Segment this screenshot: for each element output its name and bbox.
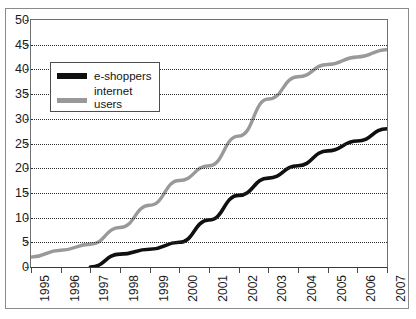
plot-area: [30, 19, 388, 268]
gridline: [31, 193, 387, 194]
x-axis-tick-label: 2007: [395, 275, 407, 302]
x-axis-tick-mark: [61, 268, 62, 273]
legend-label-e-shoppers: e-shoppers: [94, 70, 152, 83]
y-axis-tick-mark: [25, 193, 29, 194]
x-axis-tick-mark: [90, 268, 91, 273]
chart-figure: 05101520253035404550 1995199619971998199…: [0, 0, 416, 319]
x-axis: 1995199619971998199920002001200220032004…: [30, 268, 389, 316]
x-axis-tick-mark: [120, 268, 121, 273]
y-axis-tick-mark: [25, 45, 29, 46]
y-axis-tick-mark: [25, 94, 29, 95]
x-axis-tick-label: 2001: [217, 275, 229, 302]
legend-swatch-e-shoppers: [57, 73, 87, 79]
x-axis-tick-mark: [31, 268, 32, 273]
x-axis-tick-label: 1999: [158, 275, 170, 302]
legend-swatch-internet-users: [57, 98, 87, 103]
gridline: [31, 119, 387, 120]
x-axis-tick-label: 1997: [98, 275, 110, 302]
x-axis-tick-label: 2006: [365, 275, 377, 302]
x-axis-tick-mark: [298, 268, 299, 273]
x-axis-tick-label: 2003: [276, 275, 288, 302]
gridline: [31, 144, 387, 145]
x-axis-tick-mark: [268, 268, 269, 273]
x-axis-tick-label: 2002: [247, 275, 259, 302]
y-axis-tick-mark: [25, 242, 29, 243]
y-axis-tick-mark: [25, 168, 29, 169]
y-axis-tick-mark: [25, 20, 29, 21]
legend-item-internet-users: internet users: [51, 85, 132, 111]
x-axis-tick-label: 1998: [128, 275, 140, 302]
x-axis-tick-mark: [387, 268, 388, 273]
gridline: [31, 218, 387, 219]
gridline: [31, 242, 387, 243]
x-axis-tick-mark: [239, 268, 240, 273]
x-axis-tick-label: 2004: [306, 275, 318, 302]
y-axis-tick-mark: [25, 69, 29, 70]
x-axis-tick-label: 2000: [187, 275, 199, 302]
gridline: [31, 168, 387, 169]
legend-label-internet-users: internet users: [94, 85, 132, 111]
gridline: [31, 45, 387, 46]
chart-legend: e-shoppers internet users: [50, 62, 160, 112]
x-axis-tick-mark: [150, 268, 151, 273]
x-axis-tick-mark: [328, 268, 329, 273]
y-axis-tick-mark: [25, 218, 29, 219]
x-axis-tick-mark: [209, 268, 210, 273]
legend-item-e-shoppers: e-shoppers: [51, 70, 152, 83]
horizontal-gridlines: [31, 20, 387, 267]
y-axis-tick-mark: [25, 119, 29, 120]
x-axis-tick-label: 1996: [69, 275, 81, 302]
y-axis-tick-mark: [25, 144, 29, 145]
x-axis-tick-mark: [357, 268, 358, 273]
x-axis-tick-mark: [179, 268, 180, 273]
y-axis-tick-labels: 05101520253035404550: [5, 19, 29, 268]
x-axis-tick-label: 2005: [336, 275, 348, 302]
y-axis-tick-mark: [25, 267, 29, 268]
x-axis-tick-label: 1995: [39, 275, 51, 302]
